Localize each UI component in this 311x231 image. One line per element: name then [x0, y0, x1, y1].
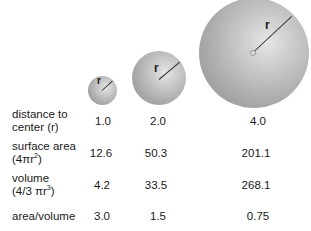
value-area-large: 201.1: [231, 147, 281, 159]
formula-close: ): [38, 153, 42, 165]
row-label-line1: area/volume: [12, 210, 75, 223]
value-area-small: 12.6: [76, 147, 126, 159]
formula-text: (4/3 πr: [12, 185, 47, 197]
formula-close: ): [51, 185, 55, 197]
value-ratio-large: 0.75: [233, 210, 283, 222]
value-distance-large: 4.0: [233, 115, 283, 127]
large-r-label: r: [265, 18, 270, 32]
value-ratio-medium: 1.5: [133, 210, 183, 222]
value-volume-small: 4.2: [77, 179, 127, 191]
row-label-surface-area: surface area (4πr2): [12, 140, 76, 166]
row-label-distance: distance to center (r): [12, 108, 68, 134]
small-r-label: r: [97, 75, 101, 86]
row-label-line2: center (r): [12, 121, 68, 134]
large-center-dot: [250, 50, 256, 56]
value-distance-small: 1.0: [78, 115, 128, 127]
row-label-line1: surface area: [12, 140, 76, 153]
row-label-line2: (4/3 πr3): [12, 185, 55, 198]
row-label-line1: volume: [12, 172, 55, 185]
row-label-area-volume: area/volume: [12, 210, 75, 223]
row-label-line2: (4πr2): [12, 153, 76, 166]
formula-text: (4πr: [12, 153, 34, 165]
value-volume-large: 268.1: [231, 179, 281, 191]
row-label-volume: volume (4/3 πr3): [12, 172, 55, 198]
value-area-medium: 50.3: [131, 147, 181, 159]
value-volume-medium: 33.5: [131, 179, 181, 191]
value-ratio-small: 3.0: [77, 210, 127, 222]
row-label-line1: distance to: [12, 108, 68, 121]
value-distance-medium: 2.0: [133, 115, 183, 127]
medium-r-label: r: [154, 61, 159, 75]
